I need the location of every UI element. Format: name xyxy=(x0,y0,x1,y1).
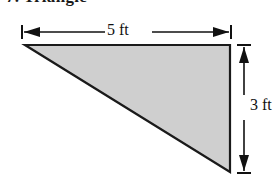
triangle-diagram-svg xyxy=(0,0,277,185)
width-right-arrowhead xyxy=(213,27,229,37)
height-bottom-arrowhead xyxy=(239,155,249,171)
triangle-shape xyxy=(25,45,230,172)
height-dimension-label: 3 ft xyxy=(250,97,272,113)
triangle-figure: 7. Triangle 5 ft 3 ft xyxy=(0,0,277,185)
width-dimension-label: 5 ft xyxy=(107,22,129,38)
width-left-arrowhead xyxy=(24,27,40,37)
height-top-arrowhead xyxy=(239,47,249,63)
